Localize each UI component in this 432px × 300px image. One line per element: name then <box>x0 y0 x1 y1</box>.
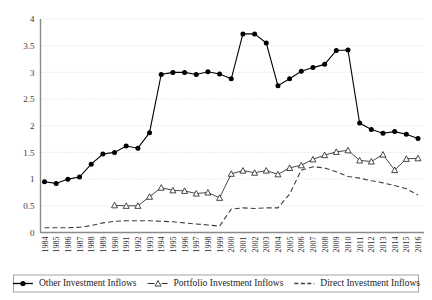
line-chart: 00.511.522.533.54 1984198519861987198819… <box>0 0 432 300</box>
data-point-marker <box>170 70 175 75</box>
data-point-marker <box>380 152 386 158</box>
data-point-marker <box>275 171 281 177</box>
x-axis-tick-label: 1998 <box>204 237 213 253</box>
legend-item-label: Other Investment Inflows <box>39 278 137 288</box>
y-axis-tick-label: 1.5 <box>23 148 35 158</box>
data-point-marker <box>112 150 117 155</box>
data-point-marker <box>147 130 152 135</box>
data-point-marker <box>263 168 269 174</box>
legend-item-label: Direct Investment Inflows <box>320 278 420 288</box>
data-point-marker <box>100 152 105 157</box>
data-point-marker <box>322 62 327 67</box>
data-point-marker <box>42 179 47 184</box>
gridlines-group <box>41 19 425 206</box>
x-axis-tick-label: 1990 <box>111 237 120 253</box>
x-axis-tick-label: 1986 <box>64 237 73 253</box>
data-series-layer <box>42 31 421 227</box>
y-axis-tick-label: 1 <box>30 174 35 184</box>
data-point-marker <box>229 76 234 81</box>
data-point-marker <box>158 185 164 191</box>
legend-item-label: Portfolio Investment Inflows <box>174 278 284 288</box>
data-point-marker <box>205 189 211 195</box>
data-point-marker <box>345 47 350 52</box>
chart-container: 00.511.522.533.54 1984198519861987198819… <box>0 0 432 300</box>
x-axis-tick-label: 1997 <box>192 237 201 253</box>
y-axis-tick-label: 3 <box>30 68 35 78</box>
x-axis-tick-label: 1999 <box>216 237 225 253</box>
chart-legend: Other Investment InflowsPortfolio Invest… <box>13 275 420 292</box>
data-point-marker <box>369 127 374 132</box>
data-point-marker <box>380 131 385 136</box>
data-point-marker <box>299 69 304 74</box>
data-point-marker <box>298 162 304 168</box>
data-point-marker <box>252 31 257 36</box>
x-axis-tick-label: 2009 <box>332 237 341 253</box>
data-point-marker <box>77 174 82 179</box>
data-point-marker <box>182 70 187 75</box>
x-axis-tick-label: 2011 <box>356 237 365 253</box>
x-axis-tick-label: 2002 <box>251 237 260 253</box>
x-axis-tick-label: 2015 <box>402 237 411 253</box>
data-point-marker <box>217 71 222 76</box>
x-axis-tick-label: 2003 <box>262 237 271 253</box>
data-point-marker <box>404 132 409 137</box>
x-axis-tick-label: 2006 <box>297 237 306 253</box>
x-axis-tick-label: 1992 <box>134 237 143 253</box>
x-axis-tick-label: 2010 <box>344 237 353 253</box>
data-point-marker <box>334 48 339 53</box>
data-point-marker <box>65 177 70 182</box>
x-axis-tick-label: 1996 <box>181 237 190 253</box>
y-axis-tick-label: 4 <box>30 14 35 24</box>
data-point-marker <box>357 121 362 126</box>
data-point-marker <box>240 31 245 36</box>
x-axis-tick-labels: 1984198519861987198819891990199119921993… <box>41 237 424 253</box>
x-axis-tick-label: 1985 <box>52 237 61 253</box>
y-axis-tick-label: 2 <box>30 121 35 131</box>
y-axis-tick-label: 0.5 <box>23 201 35 211</box>
x-axis-tick-label: 2008 <box>321 237 330 253</box>
data-point-marker <box>392 129 397 134</box>
y-axis-tick-label: 0 <box>30 228 35 238</box>
x-axis-tick-label: 1991 <box>122 237 131 253</box>
x-axis-tick-label: 1984 <box>41 237 50 253</box>
data-point-marker <box>205 69 210 74</box>
x-axis-tick-label: 1987 <box>76 237 85 253</box>
x-axis-tick-label: 2005 <box>286 237 295 253</box>
x-axis-tick-label: 1989 <box>99 237 108 253</box>
data-point-marker <box>345 147 351 153</box>
x-axis-tick-label: 1993 <box>146 237 155 253</box>
data-point-marker <box>416 136 421 141</box>
data-point-marker <box>287 76 292 81</box>
data-point-marker <box>194 72 199 77</box>
x-axis-tick-label: 2012 <box>367 237 376 253</box>
series-line-1 <box>115 150 419 206</box>
data-point-marker <box>310 156 316 162</box>
data-point-marker <box>89 162 94 167</box>
x-axis-tick-label: 2001 <box>239 237 248 253</box>
x-axis-tick-label: 2000 <box>227 237 236 253</box>
legend-marker-circle-icon <box>20 281 25 286</box>
data-point-marker <box>135 146 140 151</box>
x-axis-tick-label: 2016 <box>414 237 423 253</box>
data-point-marker <box>159 72 164 77</box>
data-point-marker <box>54 181 59 186</box>
data-point-marker <box>124 144 129 149</box>
data-point-marker <box>240 168 246 174</box>
y-axis-tick-label: 3.5 <box>23 41 35 51</box>
data-point-marker <box>310 65 315 70</box>
x-axis-tick-label: 2004 <box>274 237 283 253</box>
y-axis-tick-labels: 00.511.522.533.54 <box>23 14 35 238</box>
data-point-marker <box>275 83 280 88</box>
x-axis-tick-label: 2007 <box>309 237 318 253</box>
x-axis-tick-label: 1988 <box>87 237 96 253</box>
data-point-marker <box>264 41 269 46</box>
data-point-marker <box>217 195 223 201</box>
y-axis-tick-label: 2.5 <box>23 94 35 104</box>
x-axis-tick-label: 2013 <box>379 237 388 253</box>
x-axis-tick-label: 2014 <box>391 237 400 253</box>
x-axis-tick-label: 1994 <box>157 237 166 253</box>
x-axis-tick-label: 1995 <box>169 237 178 253</box>
